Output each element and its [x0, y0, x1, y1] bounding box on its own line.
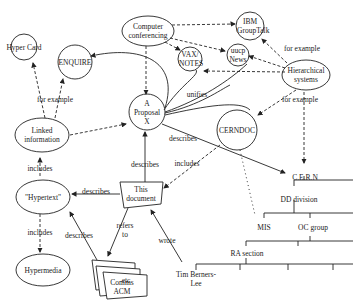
edge-label-for-example: for example: [37, 95, 73, 104]
node-cerndoc: CERNDOC: [219, 126, 255, 135]
node-hypertext: "Hypertext": [25, 193, 61, 202]
edge-label-unifies: unifies: [187, 90, 207, 99]
edge-label-includes: includes: [28, 228, 53, 237]
edge-label-describes: describes: [65, 231, 93, 240]
node-linked-information: Linked information: [22, 126, 62, 144]
node-hypermedia: Hypermedia: [24, 266, 61, 275]
node-computer-conferencing: Computer conferencing: [128, 22, 168, 40]
edge-label-includes: includes: [28, 164, 53, 173]
edge-label-refers-to: refers to: [115, 221, 135, 239]
edge-label-wrote: wrote: [158, 236, 175, 245]
node-oc-group: OC group: [298, 223, 328, 232]
node-cern: C.E.R.N: [292, 173, 318, 182]
edge-label-describes: describes: [169, 134, 197, 143]
node-proposal: A Proposal X: [132, 99, 162, 126]
node-tim: Tim Berners-Lee: [176, 270, 216, 288]
edge-label-describes: describes: [82, 187, 110, 196]
node-comms-acm: Comms ACM: [109, 278, 135, 296]
node-dd-division: DD division: [281, 195, 318, 204]
edge-label-for-example: for example: [282, 95, 318, 104]
node-ra-section: RA section: [230, 249, 263, 258]
node-hierarchical-systems: Hierarchical systems: [286, 66, 326, 84]
edge-label-for-example: for example: [284, 44, 320, 53]
node-this-document: This document: [126, 185, 156, 203]
node-enquire: ENQUIRE: [59, 58, 92, 67]
edge-label-includes: includes: [175, 159, 200, 168]
node-mis: MIS: [257, 223, 270, 232]
node-ibm-grouptalk: IBM GroupTalk: [237, 17, 263, 35]
edge-label-describes: describes: [131, 160, 159, 169]
node-hypercard: Hyper Card: [6, 43, 41, 52]
node-uucp-news: uucp News: [228, 46, 248, 64]
node-vax-notes: VAX/ NOTES: [179, 50, 201, 68]
